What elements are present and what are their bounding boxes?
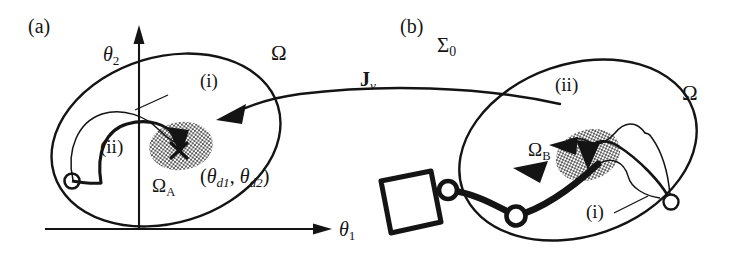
axis-theta2	[134, 25, 145, 229]
theta1-symbol: θ	[339, 218, 349, 240]
axis-theta1	[45, 224, 332, 235]
theta2-symbol: θ	[103, 43, 113, 65]
omega-a-symbol: Ω	[152, 175, 166, 196]
desired-configuration-label: (θd1, θd2)	[200, 166, 269, 189]
sigma-frame-label: Σ0	[437, 35, 456, 59]
panel-b-tag: (b)	[400, 16, 423, 36]
jacobian-symbol: J	[360, 68, 370, 90]
trajectory-start-node-right	[664, 195, 679, 210]
omega-b-symbol: Ω	[528, 139, 542, 160]
theta1-subscript: 1	[349, 228, 356, 243]
theta-d2-symbol: θ	[240, 165, 250, 187]
omega-a-label: ΩA	[152, 176, 175, 199]
manipulator-joint-base	[439, 181, 457, 199]
omega-label-left: Ω	[271, 43, 287, 64]
omega-label-right: Ω	[682, 83, 698, 104]
axis-label-theta2: θ2	[103, 44, 119, 67]
figure-container: (a) θ2 θ1 Ω (i) (ii) ΩA (θd1, θd2) Jv (b…	[0, 0, 756, 277]
arrival-arrow-task-space	[513, 161, 548, 183]
manipulator-joint-middle	[507, 207, 526, 226]
axis-label-theta1: θ1	[339, 219, 355, 242]
leader-line-i-right	[614, 196, 648, 213]
panel-a-tag: (a)	[28, 16, 50, 36]
jacobian-label: Jv	[360, 69, 376, 92]
sigma-symbol: Σ	[437, 33, 449, 57]
omega-a-subscript: A	[166, 185, 175, 199]
theta-d1-subscript: d1	[217, 175, 230, 190]
sigma-subscript: 0	[449, 44, 456, 59]
trajectory-label-ii-left: (ii)	[100, 137, 123, 156]
coord-comma: ,	[230, 165, 240, 187]
jacobian-subscript: v	[370, 78, 376, 93]
payload-square	[381, 171, 441, 233]
trajectory-label-ii-right: (ii)	[555, 75, 578, 94]
theta2-subscript: 2	[113, 53, 120, 68]
trajectory-label-i-right: (i)	[586, 202, 604, 221]
trajectory-label-i-left: (i)	[200, 71, 218, 90]
jacobian-mapping-arrow	[216, 88, 560, 124]
omega-b-subscript: B	[542, 149, 550, 163]
omega-b-label: ΩB	[528, 140, 550, 163]
theta-d2-subscript: d2	[250, 175, 263, 190]
paren-close: )	[263, 165, 270, 187]
theta-d1-symbol: θ	[207, 165, 217, 187]
paren-open: (	[200, 165, 207, 187]
